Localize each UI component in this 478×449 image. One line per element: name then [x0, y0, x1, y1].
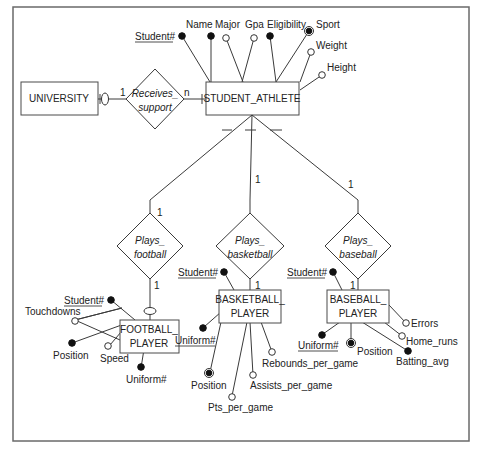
open-circle-icon: [319, 72, 326, 79]
svg-text:Height: Height: [327, 62, 356, 73]
svg-text:Major: Major: [215, 19, 241, 30]
svg-text:support: support: [138, 102, 173, 113]
filled-circle-icon: [208, 33, 215, 40]
svg-text:PLAYER: PLAYER: [231, 308, 270, 319]
open-circle-icon: [229, 394, 236, 401]
open-circle-icon: [399, 333, 406, 340]
svg-text:Receives_: Receives_: [132, 88, 179, 99]
svg-text:Eligibility: Eligibility: [267, 19, 306, 30]
svg-text:1: 1: [255, 174, 261, 185]
svg-text:Pts_per_game: Pts_per_game: [208, 402, 273, 413]
filled-circle-icon: [69, 340, 76, 347]
svg-text:FOOTBALL_: FOOTBALL_: [120, 324, 178, 335]
svg-text:Rebounds_per_game: Rebounds_per_game: [262, 358, 359, 369]
svg-text:Errors: Errors: [411, 318, 438, 329]
filled-circle-icon: [221, 269, 228, 276]
svg-text:Position: Position: [53, 350, 89, 361]
open-circle-icon: [269, 349, 276, 356]
svg-text:Plays_: Plays_: [343, 235, 373, 246]
svg-text:Home_runs: Home_runs: [406, 336, 458, 347]
open-circle-icon: [223, 35, 230, 42]
filled-circle-icon: [108, 297, 115, 304]
svg-text:Weight: Weight: [316, 40, 347, 51]
svg-text:Position: Position: [357, 346, 393, 357]
svg-text:Sport: Sport: [316, 19, 340, 30]
svg-text:BASKETBALL_: BASKETBALL_: [215, 294, 285, 305]
open-circle-icon: [250, 372, 257, 379]
svg-text:PLAYER: PLAYER: [130, 338, 169, 349]
svg-text:1: 1: [157, 207, 163, 218]
filled-circle-icon: [319, 332, 326, 339]
open-circle-icon: [403, 320, 410, 327]
svg-text:Uniform#: Uniform#: [126, 374, 167, 385]
svg-text:Gpa: Gpa: [245, 19, 264, 30]
svg-text:1: 1: [350, 280, 356, 291]
svg-text:Student#: Student#: [135, 31, 175, 42]
optional-oval-icon: [144, 308, 156, 315]
filled-circle-icon: [179, 33, 186, 40]
filled-circle-icon: [138, 364, 145, 371]
svg-text:basketball: basketball: [227, 249, 273, 260]
open-circle-icon: [308, 49, 315, 56]
svg-text:Batting_avg: Batting_avg: [396, 356, 449, 367]
svg-text:BASEBALL_: BASEBALL_: [330, 294, 387, 305]
optional-oval-icon: [102, 93, 109, 105]
svg-text:Position: Position: [191, 380, 227, 391]
svg-text:Student#: Student#: [287, 267, 327, 278]
svg-text:1: 1: [255, 280, 261, 291]
svg-text:1: 1: [120, 87, 126, 98]
svg-text:Student#: Student#: [178, 267, 218, 278]
open-circle-icon: [105, 343, 112, 350]
svg-text:Plays_: Plays_: [235, 235, 265, 246]
svg-text:Plays_: Plays_: [135, 235, 165, 246]
svg-text:football: football: [134, 249, 167, 260]
svg-text:Name: Name: [186, 19, 213, 30]
open-circle-icon: [251, 35, 258, 42]
svg-text:PLAYER: PLAYER: [339, 308, 378, 319]
svg-text:STUDENT_ATHLETE: STUDENT_ATHLETE: [203, 93, 300, 104]
svg-text:1: 1: [348, 179, 354, 190]
svg-text:Assists_per_game: Assists_per_game: [250, 380, 333, 391]
svg-text:Speed: Speed: [100, 353, 129, 364]
svg-text:Touchdowns: Touchdowns: [25, 306, 81, 317]
filled-circle-icon: [200, 325, 207, 332]
filled-circle-icon: [405, 348, 412, 355]
svg-text:Student#: Student#: [64, 295, 104, 306]
svg-text:Uniform#: Uniform#: [175, 335, 216, 346]
filled-circle-icon: [267, 33, 274, 40]
er-diagram: Student# Name Major Gpa Eligibility Spor…: [0, 0, 478, 449]
svg-text:UNIVERSITY: UNIVERSITY: [29, 93, 89, 104]
svg-text:n: n: [184, 87, 190, 98]
svg-text:1: 1: [154, 280, 160, 291]
svg-text:Uniform#: Uniform#: [298, 340, 339, 351]
filled-circle-icon: [330, 269, 337, 276]
open-circle-icon: [72, 318, 79, 325]
svg-text:baseball: baseball: [339, 249, 377, 260]
